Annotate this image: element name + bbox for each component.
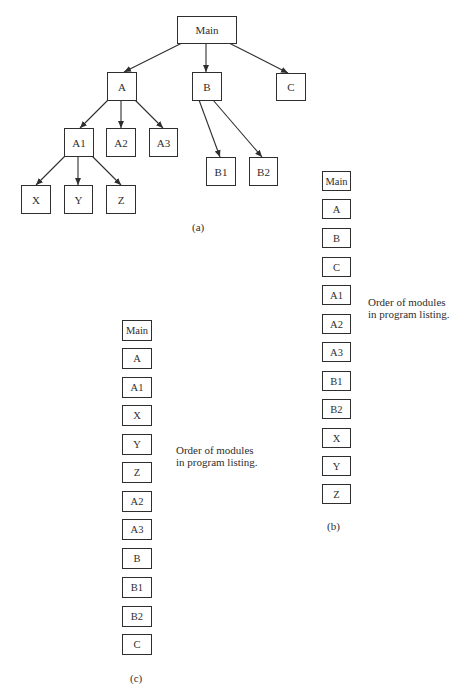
- tree-node-b2: B2: [249, 157, 278, 186]
- node-label: A2: [114, 137, 127, 149]
- edge-a1-x: [36, 156, 65, 185]
- listing-c-item: A2: [122, 491, 152, 512]
- tree-node-y: Y: [64, 185, 93, 214]
- tree-node-c: C: [276, 73, 306, 101]
- listing-c-item: B: [122, 548, 152, 569]
- item-label: B1: [330, 376, 342, 387]
- item-label: Main: [126, 325, 148, 336]
- tree-node-a: A: [107, 72, 137, 101]
- note-b-line1: Order of modules: [368, 296, 450, 308]
- item-label: A2: [131, 496, 144, 507]
- tree-node-main: Main: [177, 16, 237, 44]
- listing-b-item: A1: [322, 285, 351, 305]
- item-label: Z: [333, 489, 339, 500]
- item-label: B2: [131, 611, 143, 622]
- listing-c-item: C: [122, 634, 152, 655]
- node-label: Main: [195, 24, 218, 36]
- item-label: Main: [325, 176, 347, 187]
- item-label: A3: [330, 347, 343, 358]
- node-label: C: [287, 81, 294, 93]
- listing-b-item: Y: [322, 456, 351, 476]
- item-label: Z: [134, 467, 140, 478]
- caption-a: (a): [192, 221, 204, 233]
- listing-c-item: X: [122, 405, 152, 426]
- item-label: A: [133, 353, 141, 364]
- node-label: B: [203, 81, 210, 93]
- tree-node-z: Z: [106, 185, 136, 214]
- node-label: B2: [257, 166, 270, 178]
- tree-edges: [0, 0, 468, 697]
- edge-b-b1: [199, 100, 220, 157]
- item-label: B: [133, 553, 140, 564]
- listing-c-item: Y: [122, 434, 152, 455]
- edge-b-b2: [213, 100, 262, 157]
- listing-b-item: B1: [322, 371, 351, 391]
- tree-node-b1: B1: [206, 157, 236, 186]
- item-label: A1: [330, 290, 343, 301]
- item-label: C: [133, 639, 140, 650]
- listing-b-item: Z: [322, 484, 351, 504]
- edge-a-a3: [135, 100, 163, 128]
- listing-c-item: A: [122, 348, 152, 369]
- tree-node-a1: A1: [64, 128, 94, 157]
- item-label: X: [133, 410, 141, 421]
- listing-c-item: Z: [122, 462, 152, 483]
- note-c: Order of modules in program listing.: [176, 444, 258, 468]
- edge-main-c: [229, 43, 288, 73]
- listing-b-item: C: [322, 257, 351, 277]
- item-label: A1: [131, 382, 144, 393]
- item-label: A: [333, 204, 341, 215]
- listing-b-item: A3: [322, 342, 351, 362]
- node-label: X: [32, 194, 40, 206]
- note-b: Order of modules in program listing.: [368, 296, 450, 320]
- node-label: A1: [72, 137, 85, 149]
- edge-a1-z: [92, 156, 121, 185]
- note-c-line2: in program listing.: [176, 456, 258, 468]
- node-label: B1: [215, 166, 228, 178]
- edge-main-a: [124, 43, 182, 72]
- item-label: A2: [330, 319, 343, 330]
- caption-c: (c): [130, 672, 142, 684]
- tree-node-a3: A3: [149, 128, 178, 157]
- item-label: A3: [131, 524, 144, 535]
- edge-a-a1: [80, 100, 108, 128]
- node-label: A3: [157, 137, 170, 149]
- figure-canvas: Main A B C A1 A2 A3 B1 B2 X Y Z (a) Main…: [0, 0, 468, 697]
- item-label: B1: [131, 582, 143, 593]
- listing-b-item: X: [322, 428, 351, 448]
- caption-b: (b): [327, 520, 340, 532]
- note-b-line2: in program listing.: [368, 308, 450, 320]
- node-label: Y: [75, 194, 83, 206]
- note-c-line1: Order of modules: [176, 444, 258, 456]
- tree-node-x: X: [21, 185, 51, 214]
- item-label: C: [333, 262, 340, 273]
- listing-b-item: A: [322, 199, 351, 219]
- item-label: Y: [133, 439, 141, 450]
- listing-c-item: B1: [122, 577, 152, 598]
- listing-b-item: B2: [322, 399, 351, 419]
- node-label: A: [118, 81, 126, 93]
- listing-c-item: Main: [122, 320, 152, 341]
- item-label: Y: [333, 461, 341, 472]
- listing-b-item: Main: [322, 171, 351, 191]
- listing-b-item: A2: [322, 314, 351, 334]
- item-label: B2: [330, 404, 342, 415]
- tree-node-a2: A2: [106, 128, 136, 157]
- listing-c-item: A1: [122, 377, 152, 398]
- listing-b-item: B: [322, 228, 351, 248]
- item-label: B: [333, 233, 340, 244]
- tree-node-b: B: [192, 72, 222, 101]
- listing-c-item: B2: [122, 606, 152, 627]
- node-label: Z: [118, 194, 125, 206]
- listing-c-item: A3: [122, 519, 152, 540]
- item-label: X: [333, 433, 341, 444]
